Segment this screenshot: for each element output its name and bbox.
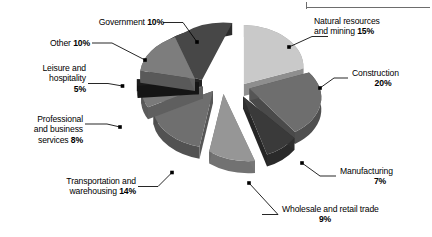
label-government: Government 10% (56, 17, 164, 27)
label-transportation-line1: Transportation and (66, 176, 136, 186)
label-wholesale-name: Wholesale and retail trade (282, 204, 379, 214)
label-transportation-value: 14% (119, 186, 136, 196)
label-other-value: 10% (73, 38, 90, 48)
pie-chart-figure: Government 10% Other 10% Leisure andhosp… (0, 0, 432, 237)
label-construction: Construction20% (352, 68, 432, 89)
label-professional-value: 8% (71, 135, 83, 145)
label-leisure-and-hospitality: Leisure andhospitality5% (0, 63, 86, 94)
label-wholesale-value: 9% (319, 214, 331, 224)
label-professional-line1: Professional (37, 114, 83, 124)
label-government-value: 10% (147, 17, 164, 27)
label-natural-resources-line2: and mining (314, 26, 355, 36)
label-government-name: Government (99, 17, 145, 27)
label-wholesale-and-retail-trade: Wholesale and retail trade9% (282, 204, 430, 225)
label-manufacturing-name: Manufacturing (340, 166, 393, 176)
label-professional-and-business-services: Professionaland businessservices 8% (0, 114, 83, 145)
label-manufacturing: Manufacturing7% (340, 166, 432, 187)
label-other: Other 10% (0, 38, 90, 48)
label-professional-line2: and business (34, 124, 83, 134)
label-construction-value: 20% (375, 78, 392, 88)
label-transportation-line2: warehousing (69, 186, 116, 196)
label-natural-resources-value: 15% (357, 26, 374, 36)
label-natural-resources-line1: Natural resources (314, 16, 380, 26)
label-leisure-line1: Leisure and (42, 63, 86, 73)
label-manufacturing-value: 7% (374, 176, 386, 186)
label-leisure-value: 5% (74, 84, 86, 94)
label-construction-name: Construction (352, 68, 399, 78)
label-leisure-line2: hospitality (49, 73, 86, 83)
label-natural-resources-and-mining: Natural resourcesand mining 15% (314, 16, 430, 37)
label-transportation-and-warehousing: Transportation andwarehousing 14% (20, 176, 136, 197)
label-other-name: Other (50, 38, 71, 48)
label-professional-line3: services (38, 135, 69, 145)
